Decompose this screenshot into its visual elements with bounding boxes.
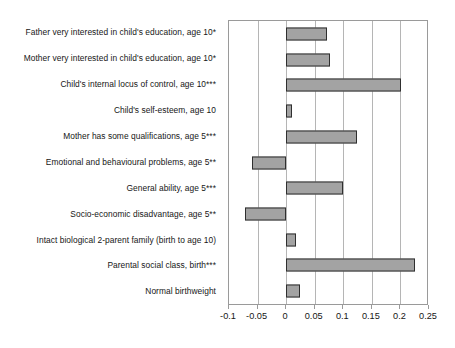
bar	[286, 27, 327, 40]
bar-row	[229, 278, 427, 304]
category-label: Socio-economic disadvantage, age 5**	[70, 210, 222, 219]
x-tick-mark	[228, 305, 229, 309]
bar	[286, 53, 330, 66]
category-label: Normal birthweight	[145, 287, 222, 296]
x-tick-mark	[371, 305, 372, 309]
bar-row	[229, 201, 427, 227]
bar	[286, 105, 292, 118]
category-label-row: Mother very interested in child's educat…	[0, 46, 222, 72]
horizontal-bar-chart: Father very interested in child's educat…	[0, 0, 455, 348]
x-tick-label: -0.1	[220, 311, 236, 321]
bar-row	[229, 47, 427, 73]
bar-row	[229, 150, 427, 176]
category-label-row: Parental social class, birth***	[0, 253, 222, 279]
category-label-row: Mother has some qualifications, age 5***	[0, 124, 222, 150]
category-label-row: General ability, age 5***	[0, 175, 222, 201]
bar	[286, 79, 401, 92]
category-label: Mother very interested in child's educat…	[24, 54, 222, 63]
bar-row	[229, 124, 427, 150]
category-label: Child's self-esteem, age 10	[114, 106, 222, 115]
x-tick-label: 0	[283, 311, 288, 321]
bar	[286, 259, 415, 272]
category-label-row: Intact biological 2-parent family (birth…	[0, 227, 222, 253]
x-tick-label: 0.1	[336, 311, 349, 321]
category-label: General ability, age 5***	[126, 184, 222, 193]
x-tick-mark	[428, 305, 429, 309]
bar	[245, 208, 286, 221]
bar	[252, 156, 286, 169]
x-tick-mark	[285, 305, 286, 309]
bar	[286, 182, 343, 195]
x-tick-label: 0.2	[393, 311, 406, 321]
bar-row	[229, 21, 427, 47]
category-label: Child's internal locus of control, age 1…	[60, 80, 222, 89]
category-label: Parental social class, birth***	[107, 261, 222, 270]
bar-row	[229, 72, 427, 98]
category-label-row: Child's self-esteem, age 10	[0, 98, 222, 124]
bar	[286, 285, 300, 298]
category-label-row: Emotional and behavioural problems, age …	[0, 150, 222, 176]
x-tick-mark	[314, 305, 315, 309]
bar-row	[229, 175, 427, 201]
x-tick-mark	[342, 305, 343, 309]
x-tick-mark	[399, 305, 400, 309]
x-tick-label: 0.15	[362, 311, 380, 321]
category-axis-labels: Father very interested in child's educat…	[0, 20, 222, 305]
bars-layer	[229, 21, 427, 304]
x-axis: -0.1-0.0500.050.10.150.20.25	[228, 305, 428, 335]
category-label: Mother has some qualifications, age 5***	[63, 132, 222, 141]
category-label-row: Socio-economic disadvantage, age 5**	[0, 201, 222, 227]
category-label-row: Father very interested in child's educat…	[0, 20, 222, 46]
category-label: Father very interested in child's educat…	[26, 28, 222, 37]
x-tick-label: 0.05	[305, 311, 323, 321]
category-label-row: Child's internal locus of control, age 1…	[0, 72, 222, 98]
plot-area	[228, 20, 428, 305]
category-label: Intact biological 2-parent family (birth…	[37, 236, 222, 245]
x-tick-label: 0.25	[419, 311, 437, 321]
bar	[286, 130, 357, 143]
category-label-row: Normal birthweight	[0, 279, 222, 305]
bar-row	[229, 253, 427, 279]
x-tick-label: -0.05	[246, 311, 267, 321]
bar-row	[229, 98, 427, 124]
category-label: Emotional and behavioural problems, age …	[46, 158, 222, 167]
bar	[286, 233, 296, 246]
bar-row	[229, 227, 427, 253]
x-tick-mark	[257, 305, 258, 309]
